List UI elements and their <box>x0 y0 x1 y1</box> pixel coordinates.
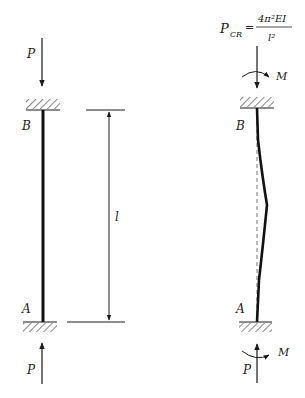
top-moment-arrow <box>242 72 269 78</box>
column-buckling-diagram: P B A P l P CR = 4π²EI l² M <box>0 0 305 398</box>
point-b-label: B <box>21 119 31 133</box>
top-support-hatch <box>26 99 60 109</box>
critical-load-formula: P CR = 4π²EI l² <box>219 13 292 43</box>
formula-denominator: l² <box>268 32 275 43</box>
bottom-moment-label: M <box>277 346 290 359</box>
length-dimension: l <box>67 110 125 322</box>
buckled-column <box>257 108 267 322</box>
formula-equals: = <box>245 21 254 34</box>
bottom-load-label-right: P <box>242 363 252 377</box>
left-column: P B A P <box>21 38 60 384</box>
right-column: M B A M P <box>235 46 290 383</box>
top-moment-label: M <box>275 70 288 83</box>
point-a-label-right: A <box>235 302 245 316</box>
formula-numerator: 4π²EI <box>257 13 287 24</box>
bottom-support-hatch-right <box>239 323 272 332</box>
top-load-label: P <box>26 47 36 61</box>
point-b-label-right: B <box>235 119 245 133</box>
formula-lhs: P <box>219 21 229 36</box>
bottom-load-label: P <box>26 363 36 377</box>
bottom-moment-arrow <box>242 351 269 358</box>
length-label: l <box>115 210 119 224</box>
point-a-label: A <box>21 302 31 316</box>
formula-lhs-subscript: CR <box>230 30 242 39</box>
top-support-hatch-right <box>240 97 274 107</box>
bottom-support-hatch <box>23 323 57 332</box>
